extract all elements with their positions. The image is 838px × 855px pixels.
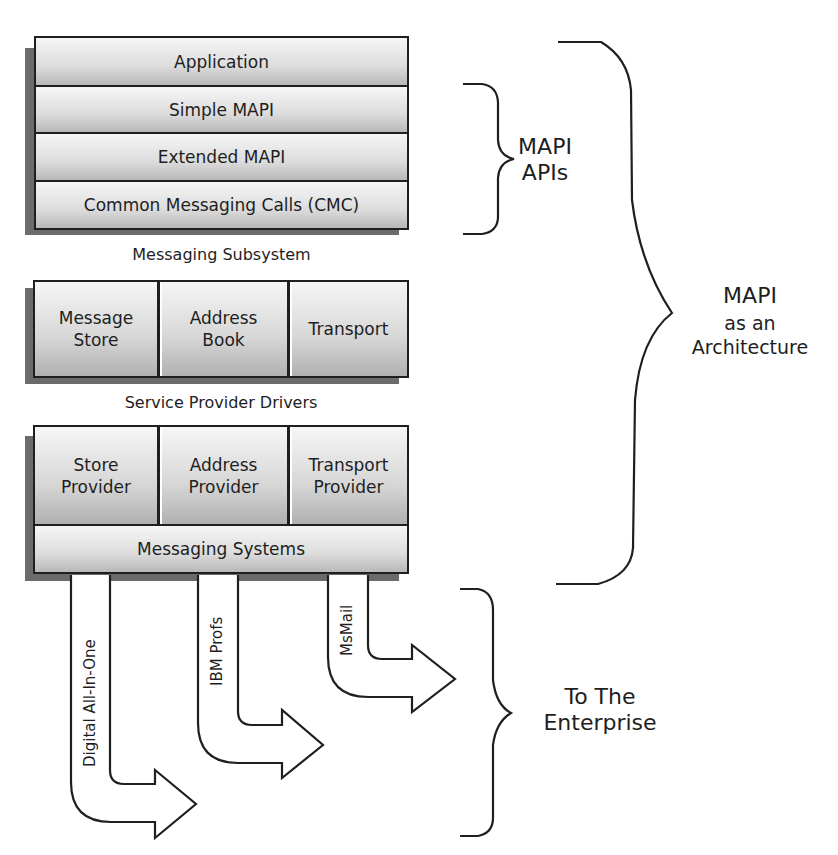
- arrow-label-msmail: MsMail: [338, 605, 356, 656]
- connectors-layer: [0, 0, 838, 855]
- brace-mapi-architecture: [556, 42, 672, 584]
- arrow-label-digital-all-in-one: Digital All-In-One: [81, 639, 99, 767]
- brace-enterprise: [460, 589, 511, 836]
- arrow-label-ibm-profs: IBM Profs: [208, 617, 226, 686]
- label-mapi-apis: MAPI APIs: [500, 134, 590, 186]
- label-architecture-sub: as an Architecture: [670, 311, 830, 359]
- label-to-the-enterprise: To The Enterprise: [525, 684, 675, 736]
- label-architecture-title: MAPI: [670, 283, 830, 309]
